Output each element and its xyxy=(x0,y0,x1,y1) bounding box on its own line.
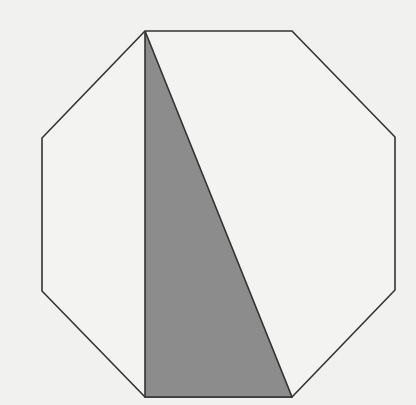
octagon-diagram xyxy=(0,0,416,405)
diagram-canvas xyxy=(0,0,416,405)
